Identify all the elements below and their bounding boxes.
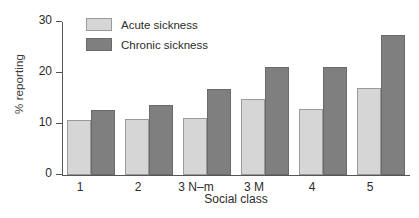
bar-acute-1: [67, 120, 91, 175]
x-axis-line: [62, 175, 410, 176]
y-tick-label-0: 0: [45, 166, 52, 180]
legend-item-chronic: Chronic sickness: [86, 36, 208, 53]
bar-chart-figure: % reporting 0102030 123 N–m3 M45 Social …: [0, 0, 419, 218]
y-tick-label-30: 30: [39, 13, 52, 27]
bar-acute-5: [299, 109, 323, 175]
legend-item-acute: Acute sickness: [86, 16, 208, 33]
y-axis-title: % reporting: [13, 34, 25, 134]
legend-swatch-acute-icon: [86, 18, 112, 31]
bar-group-6: [357, 22, 405, 175]
bar-acute-3: [183, 118, 207, 175]
bar-chronic-2: [149, 105, 173, 175]
legend-swatch-chronic-icon: [86, 38, 112, 51]
bar-acute-2: [125, 119, 149, 175]
bar-acute-4: [241, 99, 265, 176]
y-tick-label-10: 10: [39, 115, 52, 129]
bar-chronic-5: [323, 67, 347, 175]
x-axis-title: Social class: [62, 192, 410, 206]
bar-chronic-6: [381, 35, 405, 175]
bar-group-5: [299, 22, 347, 175]
legend-label-chronic: Chronic sickness: [121, 39, 208, 51]
bar-chronic-1: [91, 110, 115, 175]
bar-group-4: [241, 22, 289, 175]
y-tick-label-20: 20: [39, 64, 52, 78]
chart-legend: Acute sickness Chronic sickness: [86, 16, 208, 56]
bar-chronic-3: [207, 89, 231, 175]
bar-acute-6: [357, 88, 381, 175]
bar-chronic-4: [265, 67, 289, 175]
legend-label-acute: Acute sickness: [121, 19, 198, 31]
